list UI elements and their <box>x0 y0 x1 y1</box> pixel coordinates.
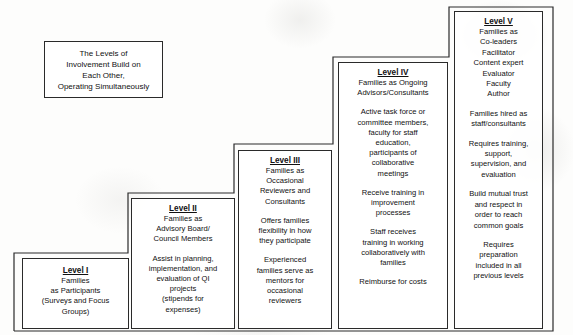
caption-text: The Levels of Involvement Build on Each … <box>56 48 152 92</box>
caption-box: The Levels of Involvement Build on Each … <box>44 41 163 98</box>
level-box-5: Level V Families as Co-leaders Facilitat… <box>454 11 543 329</box>
level-5-paragraph-1: Families hired as staff/consultants <box>458 109 539 130</box>
level-3-subtitle: Families as Occasional Reviewers and Con… <box>242 166 328 207</box>
level-4-paragraph-2: Receive training in improvement processe… <box>342 188 444 219</box>
level-5-title: Level V <box>458 16 539 27</box>
level-box-1: Level I Families as Participants (Survey… <box>22 258 129 329</box>
level-2-subtitle: Families as Advisory Board/ Council Memb… <box>135 214 231 245</box>
level-4-paragraph-1: Active task force or committee members, … <box>342 107 444 178</box>
level-5-paragraph-3: Build mutual trust and respect in order … <box>458 189 539 231</box>
level-2-title: Level II <box>135 203 231 214</box>
level-3-paragraph-2: Experienced families serve as mentors fo… <box>242 255 328 306</box>
level-1-subtitle: Families as Participants (Surveys and Fo… <box>26 276 125 317</box>
level-box-2: Level II Families as Advisory Board/ Cou… <box>131 198 235 329</box>
level-box-4: Level IV Families as Ongoing Advisors/Co… <box>338 62 448 329</box>
level-box-3: Level III Families as Occasional Reviewe… <box>238 150 332 329</box>
level-4-paragraph-4: Reimburse for costs <box>342 277 444 287</box>
level-3-title: Level III <box>242 155 328 166</box>
level-1-title: Level I <box>26 265 125 276</box>
level-4-subtitle: Families as Ongoing Advisors/Consultants <box>342 78 444 98</box>
level-5-paragraph-2: Requires training, support, supervision,… <box>458 139 539 181</box>
level-5-subtitle: Families as Co-leaders Facilitator Conte… <box>458 27 539 100</box>
diagram-canvas: The Levels of Involvement Build on Each … <box>0 0 573 335</box>
level-2-paragraph-1: Assist in planning, implementation, and … <box>135 254 231 315</box>
level-3-paragraph-1: Offers families flexibility in how they … <box>242 216 328 247</box>
level-4-title: Level IV <box>342 67 444 78</box>
level-4-paragraph-3: Staff receives training in working colla… <box>342 227 444 268</box>
level-5-paragraph-4: Requires preparation included in all pre… <box>458 240 539 282</box>
